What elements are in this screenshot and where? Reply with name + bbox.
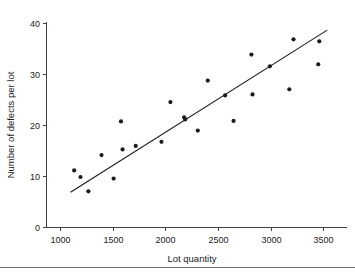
x-tick-label-1000: 1000 <box>50 235 70 245</box>
x-tick-label-2500: 2500 <box>208 235 228 245</box>
footer-divider <box>0 264 355 274</box>
data-point <box>268 64 272 68</box>
plot-background <box>0 0 355 275</box>
data-point <box>72 168 76 172</box>
data-point <box>119 119 123 123</box>
y-tick-label-30: 30 <box>30 70 40 80</box>
x-tick-label-3500: 3500 <box>313 235 333 245</box>
data-point <box>134 144 138 148</box>
data-point <box>159 140 163 144</box>
y-tick-label-0: 0 <box>35 223 40 233</box>
x-tick-label-3000: 3000 <box>261 235 281 245</box>
data-point <box>287 87 291 91</box>
y-tick-label-20: 20 <box>30 121 40 131</box>
data-point <box>99 153 103 157</box>
data-point <box>168 100 172 104</box>
data-point <box>183 117 187 121</box>
x-axis-title: Lot quantity <box>167 253 216 264</box>
figure-container: 0 10 20 30 40 1000 1500 2000 2500 3000 3… <box>0 0 355 275</box>
data-point <box>78 175 82 179</box>
data-point <box>206 79 210 83</box>
data-point <box>250 92 254 96</box>
x-tick-label-1500: 1500 <box>103 235 123 245</box>
data-point <box>317 39 321 43</box>
data-point <box>223 93 227 97</box>
data-point <box>112 176 116 180</box>
scatter-plot: 0 10 20 30 40 1000 1500 2000 2500 3000 3… <box>0 0 355 275</box>
y-tick-label-10: 10 <box>30 172 40 182</box>
data-point <box>291 37 295 41</box>
data-point <box>120 147 124 151</box>
data-point <box>86 189 90 193</box>
data-point <box>249 53 253 57</box>
data-point <box>196 129 200 133</box>
data-point <box>316 62 320 66</box>
y-axis-title: Number of defects per lot <box>5 71 16 178</box>
x-tick-label-2000: 2000 <box>155 235 175 245</box>
y-tick-label-40: 40 <box>30 19 40 29</box>
data-point <box>231 119 235 123</box>
